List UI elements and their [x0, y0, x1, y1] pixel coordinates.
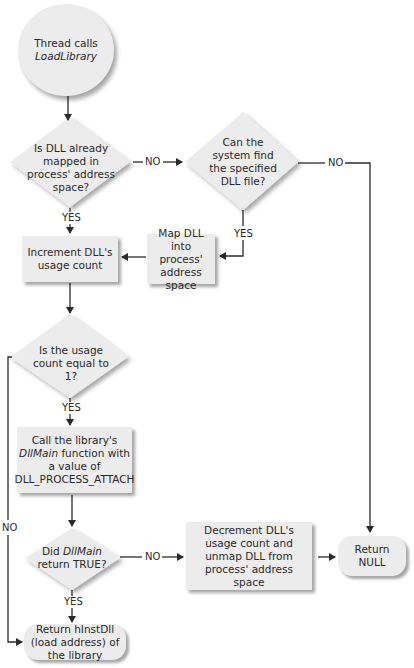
- dllmain-text-italic: DllMain: [63, 545, 102, 557]
- label-no-count: NO: [0, 522, 19, 534]
- flowchart: Thread calls LoadLibrary Is DLL already …: [0, 0, 414, 668]
- process-increment: Increment DLL's usage count: [22, 236, 118, 282]
- label-yes-count: YES: [60, 402, 83, 414]
- label-no-mapped: NO: [143, 156, 162, 168]
- end-return-null: Return NULL: [338, 536, 406, 576]
- label-yes-mapped: YES: [60, 212, 83, 224]
- start-node: Thread calls LoadLibrary: [18, 4, 114, 96]
- process-map: Map DLL into process' address space: [147, 234, 215, 284]
- call-text-pre: Call the library's: [32, 434, 118, 446]
- decision-dllmain-text: Did DllMain return TRUE?: [36, 545, 108, 571]
- dllmain-text-post: return TRUE?: [37, 558, 106, 570]
- process-call-dllmain: Call the library's DllMain function with…: [17, 427, 132, 493]
- start-text: Thread calls: [34, 37, 98, 50]
- decision-mapped-text: Is DLL already mapped in process' addres…: [22, 142, 120, 194]
- end-return-hinstdll: Return hInstDll (load address) of the li…: [24, 624, 126, 660]
- call-text-italic: DllMain: [19, 447, 58, 459]
- dllmain-text-pre: Did: [42, 545, 63, 557]
- label-yes-find: YES: [232, 228, 255, 240]
- label-no-find: NO: [326, 157, 345, 169]
- label-yes-dllmain: YES: [62, 596, 85, 608]
- decision-find-text: Can the system find the specified DLL fi…: [208, 136, 278, 188]
- decision-count-text: Is the usage count equal to 1?: [26, 344, 116, 383]
- label-no-dllmain: NO: [143, 551, 162, 563]
- start-text-italic: LoadLibrary: [35, 50, 97, 63]
- process-decrement: Decrement DLL's usage count and unmap DL…: [186, 522, 312, 590]
- call-text: Call the library's DllMain function with…: [15, 434, 135, 486]
